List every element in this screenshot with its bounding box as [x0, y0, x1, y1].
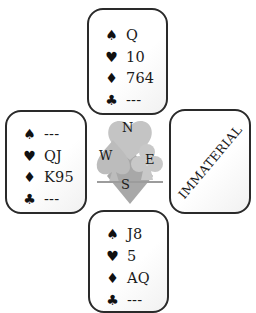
club-icon: ♣	[23, 189, 36, 209]
club-icon: ♣	[106, 290, 119, 310]
north-diamonds-row: ♦ 764	[105, 68, 154, 88]
spade-icon: ♠	[23, 124, 36, 144]
west-clubs-row: ♣ ---	[23, 189, 59, 209]
west-diamonds-cards: K95	[44, 167, 74, 187]
heart-icon: ♥	[105, 47, 118, 67]
diamond-icon: ♦	[23, 167, 36, 187]
diamond-icon: ♦	[106, 268, 119, 288]
south-spades-row: ♠ J8	[106, 224, 142, 244]
north-clubs-row: ♣ ---	[105, 90, 141, 110]
east-hand: IMMATERIAL	[169, 109, 251, 214]
heart-icon: ♥	[106, 246, 119, 266]
spade-icon: ♠	[106, 224, 119, 244]
south-diamonds-row: ♦ AQ	[106, 268, 150, 288]
north-spades-cards: Q	[126, 25, 138, 45]
north-clubs-cards: ---	[126, 90, 141, 110]
west-hand: ♠ --- ♥ QJ ♦ K95 ♣ ---	[5, 110, 87, 214]
compass-south-label: S	[121, 177, 130, 192]
south-hand: ♠ J8 ♥ 5 ♦ AQ ♣ ---	[88, 210, 169, 313]
south-hearts-cards: 5	[127, 246, 136, 266]
south-spades-cards: J8	[127, 224, 142, 244]
north-spades-row: ♠ Q	[105, 25, 138, 45]
spade-icon: ♠	[105, 25, 118, 45]
west-hearts-row: ♥ QJ	[23, 146, 62, 166]
north-hearts-cards: 10	[126, 47, 145, 67]
compass-north-label: N	[122, 120, 133, 135]
west-spades-cards: ---	[44, 124, 59, 144]
west-hearts-cards: QJ	[44, 146, 62, 166]
north-hearts-row: ♥ 10	[105, 47, 145, 67]
west-clubs-cards: ---	[44, 189, 59, 209]
south-diamonds-cards: AQ	[127, 268, 150, 288]
south-hearts-row: ♥ 5	[106, 246, 136, 266]
heart-icon: ♥	[23, 146, 36, 166]
north-diamonds-cards: 764	[126, 68, 154, 88]
south-clubs-cards: ---	[127, 290, 142, 310]
compass-west-label: W	[99, 148, 112, 163]
east-immaterial-label: IMMATERIAL	[175, 122, 245, 201]
compass-logo: N W E S	[95, 118, 165, 204]
south-clubs-row: ♣ ---	[106, 290, 142, 310]
compass-east-label: E	[145, 152, 155, 167]
west-diamonds-row: ♦ K95	[23, 167, 74, 187]
club-icon: ♣	[105, 90, 118, 110]
north-hand: ♠ Q ♥ 10 ♦ 764 ♣ ---	[87, 8, 168, 115]
diamond-icon: ♦	[105, 68, 118, 88]
west-spades-row: ♠ ---	[23, 124, 59, 144]
